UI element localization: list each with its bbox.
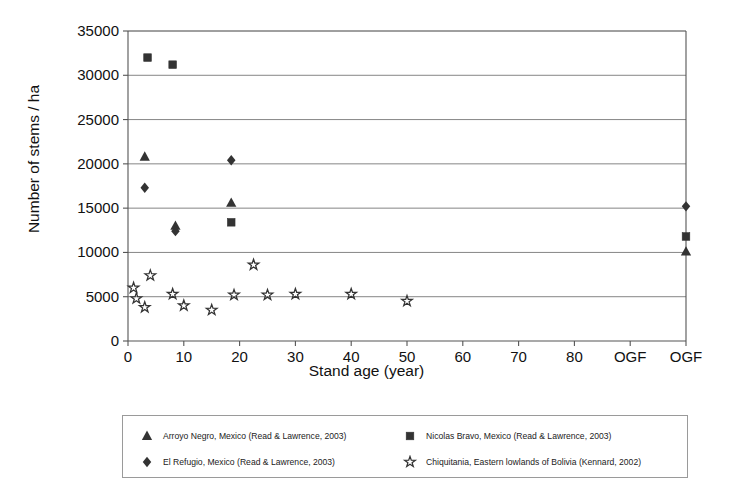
y-axis-tick-label: 20000 xyxy=(77,155,119,172)
triangle-marker-icon xyxy=(139,429,155,443)
data-point-star xyxy=(229,289,240,299)
legend-label: Arroyo Negro, Mexico (Read & Lawrence, 2… xyxy=(163,431,346,441)
series-3 xyxy=(140,155,690,236)
series-1 xyxy=(140,151,692,255)
triangle-glyph xyxy=(142,431,152,440)
diamond-glyph xyxy=(143,457,152,467)
data-point-diamond xyxy=(140,183,149,193)
data-point-star xyxy=(178,300,189,310)
star-shape xyxy=(206,304,217,314)
data-point-star xyxy=(262,289,273,299)
diamond-marker-icon xyxy=(139,455,155,469)
scatter-plot-figure: 0500010000150002000025000300003500001020… xyxy=(0,0,733,503)
star-shape xyxy=(229,289,240,299)
data-point-square xyxy=(227,219,235,227)
series-4 xyxy=(128,259,412,314)
data-point-triangle xyxy=(226,197,236,206)
data-point-square xyxy=(169,61,177,69)
legend-label: El Refugio, Mexico (Read & Lawrence, 200… xyxy=(163,457,335,467)
data-point-triangle xyxy=(140,151,150,160)
y-axis-tick-label: 25000 xyxy=(77,111,119,128)
star-glyph xyxy=(405,456,416,466)
data-point-diamond xyxy=(682,201,691,211)
legend-item-el-refugio: El Refugio, Mexico (Read & Lawrence, 200… xyxy=(123,451,394,473)
chart-area: 0500010000150002000025000300003500001020… xyxy=(0,0,733,400)
chart-legend: Arroyo Negro, Mexico (Read & Lawrence, 2… xyxy=(122,415,688,478)
star-shape xyxy=(139,302,150,312)
star-shape xyxy=(405,456,416,466)
data-point-square xyxy=(144,54,152,62)
y-axis-tick-label: 5000 xyxy=(86,288,119,305)
data-point-star xyxy=(128,282,139,292)
data-point-star xyxy=(131,293,142,303)
legend-row: Arroyo Negro, Mexico (Read & Lawrence, 2… xyxy=(123,425,687,447)
star-shape xyxy=(262,289,273,299)
legend-item-arroyo-negro: Arroyo Negro, Mexico (Read & Lawrence, 2… xyxy=(123,425,394,447)
plot-svg: 0500010000150002000025000300003500001020… xyxy=(0,0,733,400)
star-shape xyxy=(128,282,139,292)
data-point-star xyxy=(206,304,217,314)
legend-item-chiquitania: Chiquitania, Eastern lowlands of Bolivia… xyxy=(394,451,687,473)
data-point-star xyxy=(248,259,259,269)
data-point-square xyxy=(682,233,690,241)
y-axis-tick-label: 30000 xyxy=(77,66,119,83)
series-2 xyxy=(144,54,690,241)
legend-item-nicolas-bravo: Nicolas Bravo, Mexico (Read & Lawrence, … xyxy=(394,425,687,447)
star-shape xyxy=(131,293,142,303)
y-axis-tick-label: 0 xyxy=(111,332,119,349)
square-glyph xyxy=(406,432,414,440)
x-axis-label: Stand age (year) xyxy=(0,362,733,380)
star-marker-icon xyxy=(402,455,418,469)
y-axis-tick-label: 15000 xyxy=(77,199,119,216)
data-point-star xyxy=(139,302,150,312)
legend-label: Chiquitania, Eastern lowlands of Bolivia… xyxy=(426,457,641,467)
star-shape xyxy=(145,270,156,280)
data-point-star xyxy=(145,270,156,280)
star-shape xyxy=(248,259,259,269)
data-point-triangle xyxy=(681,246,691,255)
legend-label: Nicolas Bravo, Mexico (Read & Lawrence, … xyxy=(426,431,611,441)
square-marker-icon xyxy=(402,429,418,443)
y-axis-label: Number of stems / ha xyxy=(25,29,43,289)
legend-row: El Refugio, Mexico (Read & Lawrence, 200… xyxy=(123,451,687,473)
star-shape xyxy=(178,300,189,310)
y-axis-tick-label: 35000 xyxy=(77,22,119,39)
y-axis-tick-label: 10000 xyxy=(77,243,119,260)
